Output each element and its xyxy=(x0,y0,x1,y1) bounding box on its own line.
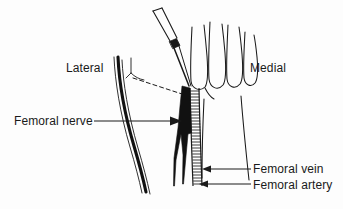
femoral-nerve-block-figure: Lateral Medial Femoral nerve Femoral vei… xyxy=(0,0,343,209)
arrow-head-vein xyxy=(202,165,211,172)
femoral-nerve xyxy=(174,86,192,186)
thigh-contour xyxy=(114,57,150,194)
label-femoral-nerve: Femoral nerve xyxy=(14,115,93,127)
femoral-vein-leader xyxy=(202,165,251,172)
arrow-head-artery xyxy=(199,180,208,187)
label-femoral-artery: Femoral artery xyxy=(253,179,332,191)
inguinal-ligament xyxy=(133,78,182,94)
femoral-nerve-leader xyxy=(94,117,182,126)
needle-hub xyxy=(170,39,181,49)
syringe-needle xyxy=(153,8,191,86)
femoral-vessels xyxy=(190,88,202,186)
femoral-artery-leader xyxy=(199,180,251,187)
label-femoral-vein: Femoral vein xyxy=(253,163,324,175)
label-medial: Medial xyxy=(250,62,286,74)
label-lateral: Lateral xyxy=(66,62,103,74)
